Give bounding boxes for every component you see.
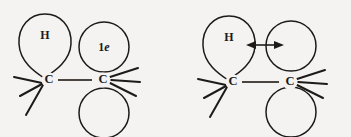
right-carbon-label: C — [98, 72, 107, 86]
right-carbon-label: C — [285, 74, 294, 88]
upper-right-lobe-outline — [266, 21, 316, 71]
single-electron-lobe-label: 1e — [98, 40, 110, 54]
orbital-diagram-canvas: C C H 1e — [0, 0, 351, 137]
single-electron-symbol: e — [104, 40, 110, 54]
left-carbon-label: C — [228, 74, 237, 88]
lower-lobe-outline — [79, 88, 129, 137]
orbital-diagram-figure: C C H 1e — [0, 0, 351, 137]
left-carbon-label: C — [44, 72, 53, 86]
hydrogen-lobe-label: H — [224, 30, 234, 44]
hydrogen-lobe-label: H — [40, 28, 50, 42]
lower-lobe-outline — [266, 87, 316, 137]
